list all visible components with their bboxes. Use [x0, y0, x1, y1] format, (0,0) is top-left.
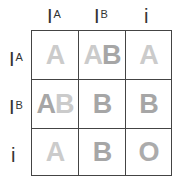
cell-r1-c0: AB — [32, 80, 78, 128]
cell-r2-c1: B — [79, 129, 125, 175]
cell-r2-c0: A — [32, 129, 78, 175]
header-sup: B — [101, 8, 108, 20]
header-base: I — [94, 5, 100, 27]
cell-r1-c2: B — [126, 80, 171, 128]
cell-r1-c1: B — [79, 80, 125, 128]
allele-A-letter: A — [84, 40, 103, 71]
allele-B-letter: B — [55, 89, 74, 120]
row-header-IA: IA — [9, 49, 23, 69]
header-base: i — [144, 5, 148, 27]
column-header-IB: IB — [94, 6, 108, 26]
column-header-IA: IA — [47, 6, 61, 26]
cell-r2-c2: O — [126, 129, 171, 175]
row-header-IB: IB — [9, 97, 23, 117]
header-sup: A — [16, 51, 23, 63]
header-base: I — [9, 48, 15, 70]
cell-r0-c1: AB — [79, 31, 125, 79]
row-header-i: i — [11, 145, 15, 165]
header-base: i — [11, 144, 15, 166]
header-sup: A — [54, 8, 61, 20]
allele-B-letter: B — [102, 40, 121, 71]
punnett-square: A AB A AB B B A B O — [31, 30, 172, 176]
cell-r0-c2: A — [126, 31, 171, 79]
header-base: I — [47, 5, 53, 27]
header-base: I — [9, 96, 15, 118]
header-sup: B — [16, 99, 23, 111]
cell-r0-c0: A — [32, 31, 78, 79]
column-header-i: i — [144, 6, 148, 26]
allele-A-letter: A — [37, 89, 56, 120]
